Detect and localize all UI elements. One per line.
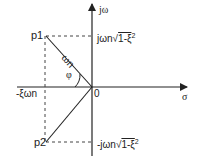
real-part-label: -ξωn xyxy=(16,89,37,99)
real-axis-label: σ xyxy=(182,92,187,102)
imag-axis-label: jω xyxy=(99,5,108,15)
lower-imag-label: -jωn√1-ξ2 xyxy=(97,137,139,150)
s-plane-diagram xyxy=(0,0,199,160)
pole-p2-label: p2 xyxy=(34,137,46,147)
upper-imag-label: jωn√1-ξ2 xyxy=(97,31,135,44)
angle-label: φ xyxy=(66,70,72,80)
pole-p1-label: p1 xyxy=(31,30,43,40)
angle-arc xyxy=(75,74,80,87)
vector-p2 xyxy=(46,87,92,142)
origin-label: 0 xyxy=(94,89,100,99)
